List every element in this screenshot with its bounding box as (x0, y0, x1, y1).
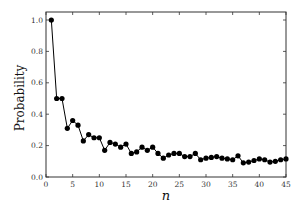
data-point-marker (209, 155, 214, 160)
data-point-marker (134, 149, 139, 154)
x-axis-label: n (162, 188, 170, 203)
x-tick-label: 25 (175, 180, 185, 189)
data-point-marker (246, 159, 251, 164)
data-point-marker (107, 140, 112, 145)
data-point-marker (214, 154, 219, 159)
data-point-marker (177, 151, 182, 156)
x-tick-label: 0 (44, 180, 49, 189)
data-point-marker (187, 154, 192, 159)
data-point-marker (65, 126, 70, 131)
y-axis-label: Probability (13, 64, 27, 131)
data-point-marker (182, 154, 187, 159)
data-point-marker (102, 148, 107, 153)
data-point-marker (241, 160, 246, 165)
x-tick-label: 20 (148, 180, 158, 189)
data-point-marker (257, 156, 262, 161)
data-point-marker (86, 132, 91, 137)
data-point-marker (150, 145, 155, 150)
data-point-marker (251, 158, 256, 163)
y-tick-label: 0.8 (31, 47, 43, 56)
data-point-marker (219, 156, 224, 161)
x-tick-label: 40 (255, 180, 265, 189)
data-point-marker (273, 159, 278, 164)
data-point-marker (225, 156, 230, 161)
data-point-marker (81, 138, 86, 143)
data-point-marker (283, 156, 288, 161)
data-point-marker (203, 156, 208, 161)
x-tick-label: 15 (121, 180, 131, 189)
data-point-marker (49, 17, 54, 22)
probability-chart: 0510152025303540450.00.20.40.60.81.0 Pro… (0, 0, 304, 207)
y-tick-label: 0.0 (31, 173, 43, 182)
y-tick-label: 0.6 (31, 78, 43, 87)
x-tick-label: 10 (95, 180, 105, 189)
data-point-marker (113, 141, 118, 146)
data-point-marker (129, 151, 134, 156)
y-tick-label: 0.2 (31, 141, 43, 150)
data-point-marker (97, 135, 102, 140)
data-point-marker (75, 123, 80, 128)
data-point-marker (262, 157, 267, 162)
data-point-marker (54, 96, 59, 101)
y-tick-label: 1.0 (31, 16, 43, 25)
x-tick-label: 30 (201, 180, 211, 189)
x-tick-label: 45 (281, 180, 291, 189)
data-point-marker (155, 151, 160, 156)
data-point-marker (235, 153, 240, 158)
data-point-marker (91, 135, 96, 140)
data-point-marker (123, 141, 128, 146)
data-point-marker (118, 145, 123, 150)
data-point-marker (230, 157, 235, 162)
data-point-marker (193, 151, 198, 156)
x-tick-label: 35 (228, 180, 238, 189)
data-point-marker (166, 152, 171, 157)
data-point-marker (145, 148, 150, 153)
axes-frame (46, 12, 286, 177)
data-point-marker (139, 145, 144, 150)
x-tick-label: 5 (70, 180, 75, 189)
plot-area (46, 12, 286, 177)
y-tick-label: 0.4 (31, 110, 43, 119)
data-point-marker (59, 96, 64, 101)
data-point-marker (198, 157, 203, 162)
data-point-marker (267, 159, 272, 164)
data-point-marker (70, 118, 75, 123)
data-point-marker (278, 157, 283, 162)
data-point-marker (161, 156, 166, 161)
data-point-marker (171, 151, 176, 156)
